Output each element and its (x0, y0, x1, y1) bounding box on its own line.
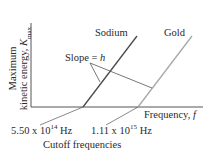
cutoff-gold-exponent: 15 (130, 123, 137, 131)
y-axis-label-line1: Maximum (7, 14, 18, 124)
x-axis-symbol: f (193, 109, 196, 120)
slope-pointer-gold (90, 63, 152, 88)
sodium-line (83, 36, 137, 107)
cutoff-leader-sodium (40, 107, 83, 125)
cutoff-gold-mantissa: 1.11 x 10 (91, 125, 130, 136)
y-axis-label-line2: kinetic energy, Kmax (18, 14, 34, 124)
cutoff-gold-unit: Hz (137, 125, 152, 136)
y-axis-subscript: max (25, 27, 33, 39)
cutoff-caption: Cutoff frequencies (43, 140, 121, 151)
cutoff-sodium-label: 5.50 x 1014 Hz (11, 124, 72, 136)
y-axis-text: kinetic energy, (18, 46, 29, 110)
sodium-label: Sodium (95, 28, 128, 39)
gold-label: Gold (164, 28, 185, 39)
slope-label-text: Slope = (65, 52, 100, 63)
cutoff-sodium-mantissa: 5.50 x 10 (11, 125, 50, 136)
cutoff-gold-label: 1.11 x 1015 Hz (91, 124, 152, 136)
slope-label: Slope = h (65, 53, 105, 64)
x-axis-label: Frequency, f (144, 110, 196, 121)
y-axis-label: Maximum kinetic energy, Kmax (7, 14, 34, 124)
y-axis-symbol: K (18, 39, 29, 46)
gold-line (138, 36, 192, 107)
slope-symbol: h (100, 52, 105, 63)
slope-pointer-sodium (90, 63, 100, 82)
cutoff-sodium-unit: Hz (57, 125, 72, 136)
x-axis-text: Frequency, (144, 109, 193, 120)
